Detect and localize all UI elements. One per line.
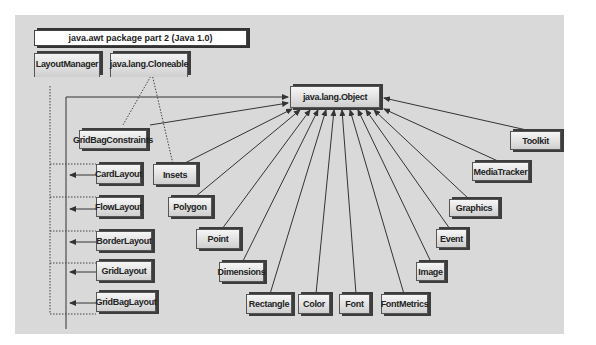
diagram-title: java.awt package part 2 (Java 1.0)	[34, 30, 247, 46]
class-borderlayout: BorderLayout	[96, 231, 152, 251]
class-graphics: Graphics	[449, 199, 499, 217]
interface-layoutmanager: LayoutManager	[34, 53, 100, 77]
interface-cloneable: java.lang.Cloneable	[110, 53, 188, 77]
class-rectangle: Rectangle	[246, 294, 292, 314]
class-polygon: Polygon	[168, 197, 212, 217]
class-point: Point	[196, 229, 240, 249]
class-object: java.lang.Object	[290, 86, 380, 108]
class-color: Color	[298, 294, 330, 314]
class-gridbaglayout: GridBagLayout	[96, 292, 156, 312]
class-flowlayout: FlowLayout	[96, 197, 141, 217]
class-fontmetrics: FontMetrics	[381, 294, 428, 314]
class-cardlayout: CardLayout	[96, 164, 141, 184]
class-toolkit: Toolkit	[510, 131, 561, 150]
class-dimensions: Dimensions	[219, 262, 264, 282]
class-gridbagconstraints: GridBagConstraints	[79, 130, 147, 149]
class-image: Image	[416, 262, 445, 281]
class-mediatracker: MediaTracker	[472, 162, 529, 181]
class-event: Event	[436, 229, 467, 248]
class-font: Font	[339, 294, 370, 314]
class-insets: Insets	[153, 164, 197, 185]
class-gridlayout: GridLayout	[96, 261, 152, 281]
